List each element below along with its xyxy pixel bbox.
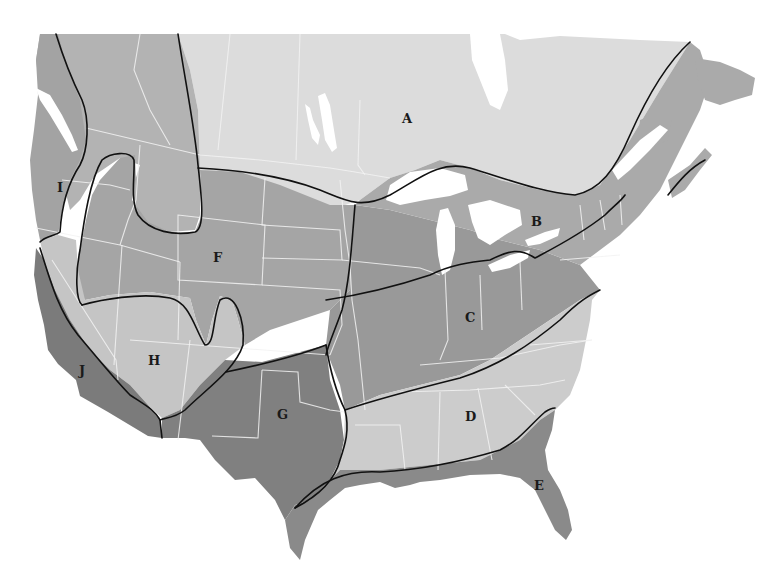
zone-map: A B C D E F G H I J	[0, 0, 772, 580]
label-b: B	[531, 214, 542, 229]
label-a: A	[401, 111, 413, 126]
label-f: F	[213, 250, 223, 265]
label-h: H	[148, 353, 160, 368]
label-c: C	[465, 310, 475, 325]
label-j: J	[78, 363, 85, 378]
label-d: D	[465, 409, 476, 424]
label-e: E	[534, 478, 544, 493]
label-g: G	[277, 407, 288, 422]
land-base	[30, 34, 755, 560]
label-i: I	[57, 180, 63, 195]
